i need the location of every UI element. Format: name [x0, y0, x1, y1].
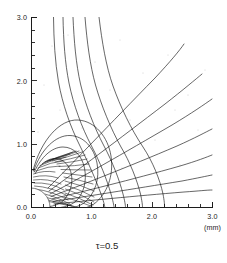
- figure-container: 0.0 1.0 2.0 3.0 0.0 1.0 2.0 3.0 (mm) τ=0…: [0, 0, 227, 263]
- x-axis-unit-label: (mm): [204, 223, 221, 232]
- x-tick-label-2: 2.0: [147, 212, 157, 221]
- y-tick-label-3: 3.0: [17, 13, 27, 22]
- x-tick-label-3: 3.0: [207, 212, 217, 221]
- x-tick-label-0: 0.0: [26, 212, 36, 221]
- x-tick-label-1: 1.0: [86, 212, 96, 221]
- y-tick-label-1: 1.0: [17, 140, 27, 149]
- y-tick-label-2: 2.0: [17, 77, 27, 86]
- figure-caption: τ=0.5: [96, 240, 119, 251]
- field-line-plot: 0.0 1.0 2.0 3.0 0.0 1.0 2.0 3.0 (mm) τ=0…: [0, 0, 227, 263]
